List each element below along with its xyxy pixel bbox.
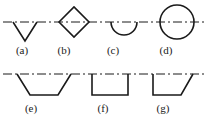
caption-c: (c) (98, 44, 128, 56)
caption-d: (d) (151, 44, 181, 56)
caption-a: (a) (7, 44, 37, 56)
caption-f: (f) (88, 102, 118, 114)
shape-g-trapezoid-asymmetric (153, 74, 193, 95)
caption-g: (g) (148, 102, 178, 114)
shape-c-semicircle (111, 22, 137, 35)
caption-b: (b) (49, 44, 79, 56)
shape-e-trapezoid-symmetric (17, 74, 71, 95)
shape-a-v-groove (13, 22, 37, 41)
technical-drawing-figure: (a) (b) (c) (d) (e) (f) (g) (0, 0, 209, 121)
caption-e: (e) (16, 102, 46, 114)
shape-f-rectangle (92, 74, 128, 95)
